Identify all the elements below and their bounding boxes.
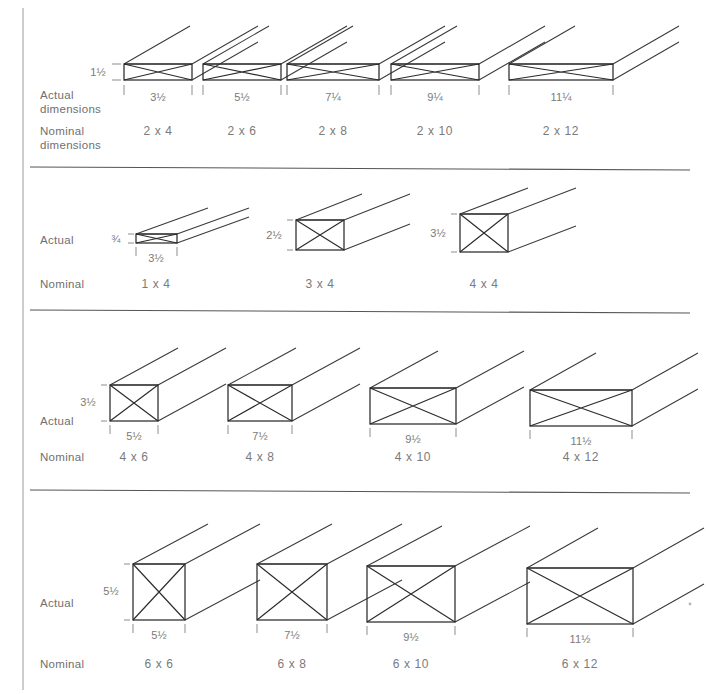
board-2x8-nominal: 2 x 8 [318,124,347,138]
board-1x4-width: 3½ [148,252,164,264]
board-6x12-nominal: 6 x 12 [562,657,598,671]
row-2x-nominal-label-line2: dimensions [40,139,101,151]
board-2x12: 11¼ 2 x 12 [509,26,679,138]
board-1x4-nominal: 1 x 4 [141,277,170,291]
board-4x12-width: 11½ [570,435,591,447]
board-4x8-width: 7½ [252,430,268,442]
board-2x6-width: 5½ [234,91,250,103]
board-6x6-nominal: 6 x 6 [144,657,173,671]
board-4x12: 11½ 4 x 12 [530,353,698,464]
row-mixed: Actual Nominal ¾ 3½ 1 x 4 2½ 3 x 4 [40,188,576,291]
row-4x-actual-label: Actual [40,415,74,427]
board-3x4: 2½ 3 x 4 [266,194,410,291]
board-2x10-width: 9¼ [427,91,443,103]
row-6x-nominal-label: Nominal [40,658,84,670]
board-4x6-width: 5½ [126,430,142,442]
board-6x8-width: 7½ [284,629,300,641]
board-6x12: 11½ 6 x 12 [527,528,704,671]
board-6x8: 7½ 6 x 8 [257,524,402,671]
board-4x4: 3½ 4 x 4 [430,188,576,291]
board-6x8-nominal: 6 x 8 [277,657,306,671]
board-6x10: 9½ 6 x 10 [367,526,530,671]
lumber-dimensions-figure: Actual dimensions Nominal dimensions 1½ … [0,0,706,694]
board-2x12-width: 11¼ [550,91,572,103]
board-2x6: 5½ 2 x 6 [203,26,347,138]
board-6x12-width: 11½ [569,633,590,645]
board-4x6-height: 3½ [80,396,96,408]
board-4x8: 7½ 4 x 8 [228,348,360,464]
row-2x-actual-label-line2: dimensions [40,103,101,115]
row-2x: Actual dimensions Nominal dimensions 1½ … [40,26,679,151]
row-4x: Actual Nominal 3½ 5½ 4 x 6 7½ 4 x 8 [40,348,698,464]
board-2x4: 1½ 3½ 2 x 4 [90,26,258,138]
row-divider-2 [30,310,690,313]
row-mixed-actual-label: Actual [40,234,74,246]
board-6x10-width: 9½ [403,631,419,643]
board-4x4-height: 3½ [430,227,446,239]
board-2x4-nominal: 2 x 4 [143,124,172,138]
board-3x4-nominal: 3 x 4 [305,277,334,291]
board-4x6: 3½ 5½ 4 x 6 [80,348,226,464]
board-2x4-width: 3½ [150,91,166,103]
row-4x-nominal-label: Nominal [40,451,84,463]
row-6x: Actual Nominal 5½ 5½ 6 x 6 7½ 6 x 8 [40,524,704,671]
board-4x10-width: 9½ [405,433,421,445]
scan-speck [689,603,692,606]
board-6x10-nominal: 6 x 10 [393,657,429,671]
board-6x6-height: 5½ [103,585,119,597]
board-3x4-height: 2½ [266,229,282,241]
row-mixed-nominal-label: Nominal [40,278,84,290]
board-2x10-nominal: 2 x 10 [417,124,453,138]
board-2x6-nominal: 2 x 6 [227,124,256,138]
row-6x-actual-label: Actual [40,597,74,609]
row-divider-1 [30,167,690,170]
board-2x4-height: 1½ [90,66,106,78]
board-4x8-nominal: 4 x 8 [245,450,274,464]
board-2x10: 9¼ 2 x 10 [391,26,545,138]
board-4x4-nominal: 4 x 4 [469,277,498,291]
row-divider-3 [30,490,690,493]
board-6x6-width: 5½ [151,629,167,641]
board-2x8: 7¼ 2 x 8 [287,26,445,138]
row-2x-actual-label: Actual [40,89,74,101]
board-1x4: ¾ 3½ 1 x 4 [111,208,249,291]
board-4x12-nominal: 4 x 12 [563,450,599,464]
row-2x-nominal-label: Nominal [40,125,84,137]
board-6x6: 5½ 5½ 6 x 6 [103,524,260,671]
board-2x12-nominal: 2 x 12 [543,124,579,138]
board-4x10-nominal: 4 x 10 [395,450,431,464]
board-2x8-width: 7¼ [325,91,341,103]
board-4x10: 9½ 4 x 10 [370,351,524,464]
board-4x6-nominal: 4 x 6 [119,450,148,464]
board-1x4-height: ¾ [111,233,121,245]
